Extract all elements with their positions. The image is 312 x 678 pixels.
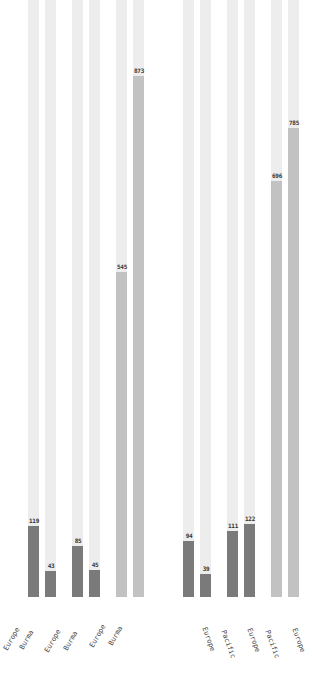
- value-label: 873: [129, 67, 149, 74]
- bar-track: [288, 0, 299, 597]
- bar: [116, 272, 127, 597]
- bar: [271, 181, 282, 597]
- bar: [183, 541, 194, 597]
- bar-track: [227, 0, 238, 597]
- value-label: 45: [85, 561, 105, 568]
- x-tick-label: Burma: [107, 625, 124, 647]
- bar: [133, 76, 144, 597]
- bar-track: [244, 0, 255, 597]
- x-tick-label: Pacific: [263, 629, 281, 659]
- value-label: 43: [41, 562, 61, 569]
- value-label: 39: [196, 565, 216, 572]
- bar-track: [45, 0, 56, 597]
- value-label: 545: [112, 263, 132, 270]
- value-label: 85: [68, 537, 88, 544]
- bar-track: [133, 0, 144, 597]
- value-label: 785: [284, 119, 304, 126]
- x-tick-label: Europe: [88, 623, 108, 649]
- x-tick-label: Europe: [200, 626, 216, 653]
- bar-track: [89, 0, 100, 597]
- bar-track: [72, 0, 83, 597]
- bar: [244, 524, 255, 597]
- bar: [72, 546, 83, 597]
- bar-track: [28, 0, 39, 597]
- x-tick-label: Europe: [245, 627, 261, 654]
- x-tick-label: Pacific: [219, 629, 237, 659]
- value-label: 122: [240, 515, 260, 522]
- bar: [28, 526, 39, 597]
- bar: [227, 531, 238, 597]
- value-label: 119: [24, 517, 44, 524]
- value-label: 111: [223, 522, 243, 529]
- bar-chart: 1194385455458739439111122696785 EuropeBu…: [0, 0, 312, 678]
- bar: [89, 570, 100, 597]
- value-label: 94: [179, 532, 199, 539]
- x-tick-label: Europe: [290, 627, 306, 654]
- bar: [200, 574, 211, 597]
- x-tick-label: Europe: [43, 628, 63, 654]
- x-tick-label: Europe: [2, 626, 22, 652]
- bar-track: [183, 0, 194, 597]
- x-tick-label: Burma: [18, 629, 35, 651]
- value-label: 696: [267, 172, 287, 179]
- bar: [45, 571, 56, 597]
- bar-track: [116, 0, 127, 597]
- bar-track: [200, 0, 211, 597]
- bar: [288, 128, 299, 597]
- x-tick-label: Burma: [62, 630, 79, 652]
- bar-track: [271, 0, 282, 597]
